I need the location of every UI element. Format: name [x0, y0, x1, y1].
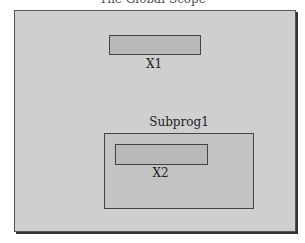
diagram-title: The Global Scope: [0, 0, 305, 6]
subprog1-box: X2: [104, 133, 254, 209]
subprog1-label: Subprog1: [104, 115, 254, 129]
x2-box: [115, 144, 208, 165]
x1-box: [109, 35, 201, 55]
global-scope-box: X1 Subprog1 X2: [14, 10, 296, 232]
x2-label: X2: [115, 166, 206, 180]
x1-label: X1: [109, 57, 199, 71]
